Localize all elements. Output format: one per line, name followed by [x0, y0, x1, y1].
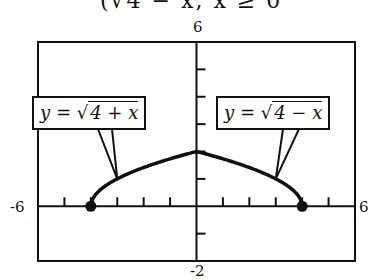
sqrt-icon: √: [77, 102, 88, 123]
callout-left-prefix: y =: [40, 102, 77, 123]
endpoint-dot: [85, 201, 96, 212]
endpoint-dot: [297, 201, 308, 212]
sqrt-icon: √: [261, 102, 272, 123]
callout-left-radicand: 4 + x: [88, 101, 138, 123]
callout-pointer: [98, 129, 117, 179]
callout-right: y = √4 − x: [216, 96, 330, 130]
callout-right-prefix: y =: [224, 102, 261, 123]
callout-left: y = √4 + x: [32, 96, 146, 130]
callout-right-radicand: 4 − x: [272, 101, 322, 123]
callout-pointer: [276, 129, 299, 179]
